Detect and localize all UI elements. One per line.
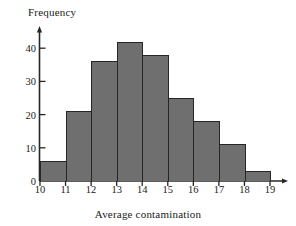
y-axis-tick-label: 40 xyxy=(14,43,36,54)
x-axis-tick-label: 19 xyxy=(265,184,276,195)
x-axis-tick-label: 10 xyxy=(35,184,46,195)
x-axis-tick-label: 13 xyxy=(111,184,122,195)
histogram-bar xyxy=(91,61,118,181)
histogram-bar xyxy=(142,55,169,181)
histogram-chart: Frequency 010203040 10111213141516171819… xyxy=(0,0,296,226)
histogram-bar xyxy=(193,121,220,181)
x-axis-tick-label: 14 xyxy=(137,184,148,195)
histogram-bar xyxy=(168,98,195,181)
x-axis-tick-label: 11 xyxy=(60,184,70,195)
y-axis-tick-label: 10 xyxy=(14,142,36,153)
x-axis-tick-label: 18 xyxy=(239,184,250,195)
histogram-bar xyxy=(245,171,272,181)
x-axis-title: Average contamination xyxy=(0,208,296,220)
y-axis-tick-label: 30 xyxy=(14,76,36,87)
histogram-bar xyxy=(40,161,67,181)
histogram-bar xyxy=(66,111,93,181)
y-axis-tick-labels: 010203040 xyxy=(10,0,36,226)
histogram-bars xyxy=(40,29,270,181)
x-axis-tick-label: 16 xyxy=(188,184,199,195)
x-axis-tick-label: 15 xyxy=(163,184,174,195)
y-axis-tick-label: 20 xyxy=(14,109,36,120)
x-axis-tick-labels: 10111213141516171819 xyxy=(40,184,270,200)
y-axis-tick-label: 0 xyxy=(14,176,36,187)
histogram-bar xyxy=(117,42,144,181)
x-axis-tick-label: 12 xyxy=(86,184,97,195)
histogram-bar xyxy=(219,144,246,181)
x-axis-tick-label: 17 xyxy=(214,184,225,195)
